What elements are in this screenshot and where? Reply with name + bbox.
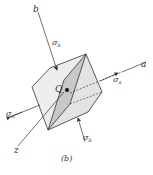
point-q-dot bbox=[65, 88, 69, 92]
b-axis-label: b bbox=[33, 4, 39, 14]
sigma-a-left-label: σa bbox=[6, 109, 14, 119]
sigma-b-bottom-label: σb bbox=[83, 133, 92, 143]
stress-element-diagram: b a z Q σb σb σa σa (b) bbox=[0, 0, 153, 175]
sigma-a-right-label: σa bbox=[113, 75, 121, 85]
figure-caption: (b) bbox=[61, 154, 72, 163]
z-axis-label: z bbox=[13, 145, 19, 155]
diagram-svg: b a z Q σb σb σa σa (b) bbox=[0, 0, 153, 175]
point-q-label: Q bbox=[55, 84, 63, 94]
sigma-b-top-label: σb bbox=[52, 38, 61, 48]
a-axis-label: a bbox=[141, 59, 146, 69]
